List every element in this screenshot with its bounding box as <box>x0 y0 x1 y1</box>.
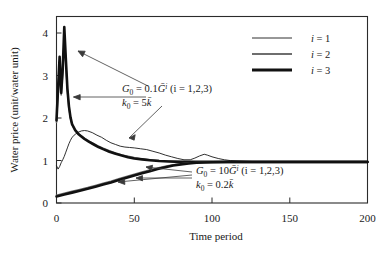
upper-annot-k-eq: = <box>130 97 141 108</box>
y-tick-label-3: 3 <box>43 70 49 82</box>
x-tick-label-150: 150 <box>282 212 299 224</box>
upper-annot-coef: 0.1 <box>145 83 158 94</box>
legend-label-i3: i= 3 <box>311 65 330 76</box>
upper-annot-kbar: k̄ <box>147 97 152 108</box>
legend-label-i2: i= 2 <box>311 49 330 60</box>
y-axis-title: Water price (unit/water unit) <box>8 47 21 173</box>
legend-label-i1: i= 1 <box>311 33 330 44</box>
water-price-chart: 0 1 2 3 4 0 50 100 150 200 Time period W… <box>0 0 387 259</box>
lower-annot-eq: = <box>207 165 218 176</box>
y-tick-label-0: 0 <box>43 197 49 209</box>
y-tick-label-4: 4 <box>43 27 49 39</box>
lower-annot-k-eq: = <box>204 179 215 190</box>
upper-annot-eq: = <box>133 83 144 94</box>
x-tick-label-100: 100 <box>204 212 221 224</box>
lower-annot-paren: (i = 1,2,3) <box>239 165 284 177</box>
y-tick-label-2: 2 <box>43 112 49 124</box>
lower-annot-k-val: 0.2 <box>216 179 229 190</box>
lower-annot-coef: 10 <box>219 165 230 176</box>
x-tick-label-200: 200 <box>359 212 376 224</box>
x-tick-label-50: 50 <box>129 212 141 224</box>
x-tick-label-0: 0 <box>54 212 60 224</box>
lower-annot-kbar: k̄ <box>229 179 234 190</box>
y-tick-label-1: 1 <box>43 155 49 167</box>
upper-annot-paren: (i = 1,2,3) <box>167 83 212 95</box>
x-axis-title: Time period <box>189 230 243 242</box>
